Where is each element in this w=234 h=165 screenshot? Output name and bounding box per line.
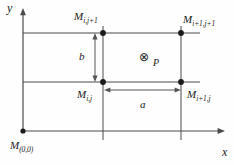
node-label-origin-base: M bbox=[10, 139, 19, 151]
cross-circle-icon: ⊗ bbox=[139, 51, 149, 63]
dimension-label-b: b bbox=[79, 51, 85, 62]
dimension-label-a: a bbox=[140, 99, 146, 110]
y-axis-label: y bbox=[7, 2, 12, 14]
node-label-bottom-right-sub: i+1,j bbox=[196, 94, 210, 103]
node-label-top-left: Mi,j+1 bbox=[74, 11, 98, 22]
node-label-top-right-base: M bbox=[183, 13, 192, 25]
node-dot-top-left bbox=[100, 30, 106, 36]
node-label-top-right: Mi+1,j+1 bbox=[183, 14, 215, 25]
node-label-top-left-sub: i,j+1 bbox=[83, 16, 97, 25]
y-axis bbox=[20, 8, 26, 131]
node-dot-origin bbox=[20, 128, 25, 133]
node-label-top-right-sub: i+1,j+1 bbox=[192, 19, 215, 28]
node-label-origin: M(0,0) bbox=[10, 140, 33, 151]
dimension-arrow-a bbox=[104, 87, 181, 92]
node-label-bottom-left-sub: i,j bbox=[86, 94, 92, 103]
node-dot-bottom-left bbox=[100, 79, 106, 85]
dimension-arrow-b bbox=[92, 33, 97, 82]
point-label-p: P bbox=[153, 58, 159, 68]
node-dot-top-right bbox=[178, 30, 184, 36]
x-axis-label: x bbox=[222, 146, 227, 158]
node-label-bottom-right-base: M bbox=[187, 88, 196, 100]
node-label-bottom-left: Mi,j bbox=[77, 89, 92, 100]
node-label-origin-sub: (0,0) bbox=[19, 145, 33, 154]
node-label-bottom-right: Mi+1,j bbox=[187, 89, 211, 100]
node-label-top-left-base: M bbox=[74, 10, 83, 22]
x-axis bbox=[23, 128, 225, 134]
node-dot-bottom-right bbox=[178, 79, 184, 85]
grid-cell-diagram: y x M(0,0) Mi,j+1 Mi+1,j+1 Mi,j Mi+1,j b… bbox=[0, 0, 234, 165]
node-label-bottom-left-base: M bbox=[77, 88, 86, 100]
